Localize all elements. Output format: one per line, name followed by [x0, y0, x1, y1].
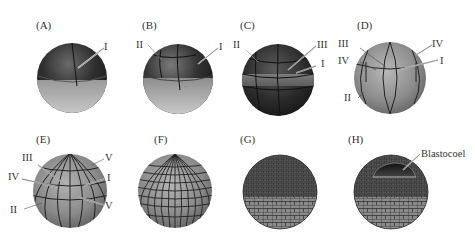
plane-label-c-ii: II — [233, 40, 240, 51]
plane-label-e-i: I — [107, 173, 111, 184]
embryo-2-cell-illustration — [0, 0, 118, 121]
embryo-8-cell-illustration — [236, 0, 354, 121]
plane-label-e-iv: IV — [8, 172, 19, 183]
plane-label-c-iii: III — [317, 40, 328, 51]
plane-label-e-v-bottom: V — [105, 201, 113, 212]
plane-label-d-iii: III — [338, 39, 349, 50]
plane-label-e-iii: III — [22, 153, 33, 164]
panel-h: (H) Blastocoel — [354, 121, 472, 242]
panel-d: (D) III IV IV I II — [354, 0, 472, 121]
panel-e: (E) III V IV — [0, 121, 118, 242]
embryo-16-cell-illustration — [354, 0, 475, 121]
panel-a: (A) I — [0, 0, 118, 121]
panel-g: (G) — [236, 121, 354, 242]
plane-label-b-i: I — [219, 42, 223, 53]
plane-label-d-iv-left: IV — [338, 56, 349, 67]
plane-label-b-ii: II — [136, 40, 143, 51]
plane-label-d-ii: II — [344, 93, 351, 104]
embryo-morula-illustration — [118, 121, 236, 242]
panel-b: (B) II I — [118, 0, 236, 121]
panel-c: (C) II III I — [236, 0, 354, 121]
plane-label-c-i: I — [321, 59, 325, 70]
plane-label-e-ii: II — [10, 205, 17, 216]
embryo-blastula-cutaway-illustration — [354, 121, 475, 242]
plane-label-d-iv-right: IV — [432, 39, 443, 50]
plane-label-a-i: I — [104, 42, 108, 53]
embryo-blastula-illustration — [236, 121, 354, 242]
plane-label-e-v-top: V — [105, 153, 113, 164]
embryo-4-cell-illustration — [118, 0, 236, 121]
plane-label-d-i: I — [440, 56, 444, 67]
panel-f: (F) — [118, 121, 236, 242]
blastocoel-label: Blastocoel — [421, 149, 465, 160]
